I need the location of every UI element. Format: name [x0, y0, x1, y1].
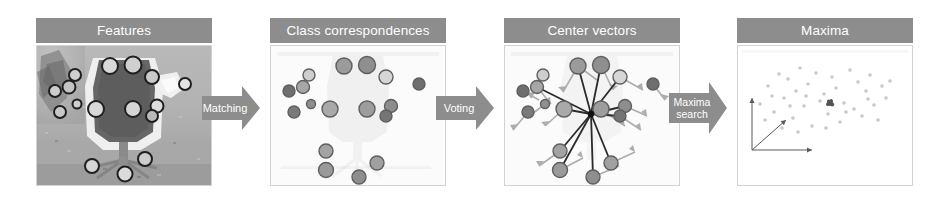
- scatter-point: [852, 107, 856, 111]
- arrow-maxima-search: Maxima search: [669, 80, 727, 136]
- scatter-point: [872, 103, 876, 107]
- panel-maxima-title: Maxima: [737, 18, 913, 43]
- scatter-point: [780, 126, 784, 130]
- panel-center-vectors-title: Center vectors: [504, 18, 680, 43]
- panel-class-correspondences: Class correspondences: [270, 18, 446, 186]
- scatter-point: [791, 116, 795, 120]
- arrow-matching-shape: [202, 85, 260, 131]
- maximum-point: [830, 102, 834, 106]
- scatter-point: [770, 94, 774, 98]
- scatter-point: [810, 124, 814, 128]
- scatter-point: [804, 94, 808, 98]
- scatter-point: [777, 72, 781, 76]
- scatter-point: [866, 97, 870, 101]
- scatter-point: [888, 79, 892, 83]
- arrow-maxima-search-shape: [669, 80, 727, 136]
- maximum-point: [827, 100, 830, 103]
- scatter-point: [806, 82, 810, 86]
- scatter-point: [842, 101, 846, 105]
- arrow-voting-shape: [436, 85, 494, 131]
- panel-features: Features: [36, 18, 212, 186]
- scatter-point: [834, 86, 838, 90]
- scatter-point: [818, 99, 822, 103]
- arrow-voting: Voting: [436, 85, 494, 131]
- scatter-point: [798, 66, 802, 70]
- panel-maxima: Maxima: [737, 18, 913, 186]
- pipeline-diagram: Features: [0, 0, 942, 215]
- scatter-point: [868, 73, 872, 77]
- scatter-point: [822, 92, 826, 96]
- panel-features-image: [36, 45, 212, 186]
- scatter-point: [772, 110, 776, 114]
- scatter-point: [876, 118, 880, 122]
- scatter-point: [782, 96, 786, 100]
- scatter-point: [766, 84, 770, 88]
- scatter-point: [880, 84, 884, 88]
- maximum-point: [826, 102, 830, 106]
- scatter-point: [884, 96, 888, 100]
- panel-center-vectors: Center vectors: [504, 18, 680, 186]
- scatter-point: [856, 80, 860, 84]
- panel-features-title: Features: [36, 18, 212, 43]
- panel-class-correspondences-title: Class correspondences: [270, 18, 446, 43]
- panel-maxima-plot: [737, 45, 913, 186]
- scatter-point: [796, 130, 800, 134]
- scatter-point: [758, 102, 762, 106]
- panel-class-correspondences-image: [270, 45, 446, 186]
- panel-center-vectors-image: [504, 45, 680, 186]
- features-illustration: [37, 46, 211, 185]
- center-hypothesis-node: [588, 111, 594, 117]
- center-vectors-illustration: [505, 46, 679, 185]
- arrow-matching: Matching: [202, 85, 260, 131]
- scatter-point: [794, 89, 798, 93]
- scatter-point: [864, 89, 868, 93]
- maxima-scatter-plot: [738, 46, 912, 185]
- scatter-point: [786, 77, 790, 81]
- scatter-point: [830, 75, 834, 79]
- scatter-point: [788, 104, 792, 108]
- class-correspondences-illustration: [271, 46, 445, 185]
- scatter-point: [844, 110, 848, 114]
- scatter-point: [826, 112, 830, 116]
- scatter-point: [838, 120, 842, 124]
- scatter-point: [860, 114, 864, 118]
- scatter-point: [814, 71, 818, 75]
- scatter-point: [848, 68, 852, 72]
- scatter-point: [763, 118, 767, 122]
- scatter-point: [824, 126, 828, 130]
- scatter-point: [802, 104, 806, 108]
